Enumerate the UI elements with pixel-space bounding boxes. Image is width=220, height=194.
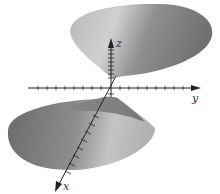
double-cone-diagram: z y	[0, 0, 220, 194]
lower-cone-nappe	[8, 97, 155, 170]
y-axis-label: y	[191, 92, 199, 105]
upper-cone-nappe	[70, 4, 212, 78]
x-axis-label: x	[63, 180, 70, 193]
z-axis-label: z	[115, 37, 122, 50]
